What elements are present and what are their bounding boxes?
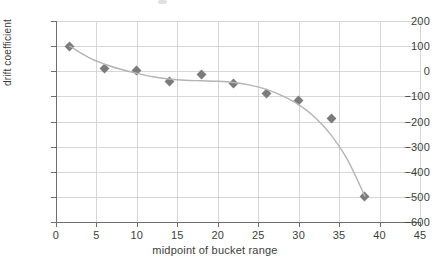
x-axis-title: midpoint of bucket range xyxy=(0,244,430,256)
y-axis-title: drift coefficient xyxy=(2,19,13,86)
